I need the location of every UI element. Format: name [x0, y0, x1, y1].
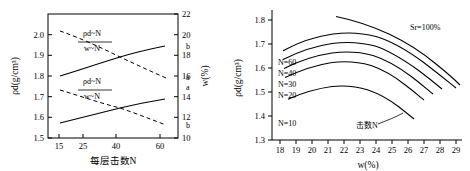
right-ytick-0: 1.3	[254, 135, 265, 145]
curve-saturation-line	[336, 17, 460, 86]
right-xtick-6: 24	[372, 145, 381, 155]
right-xtick-5: 23	[356, 145, 365, 155]
left-axes	[48, 14, 178, 138]
left-ytick2-5: 20	[182, 30, 191, 40]
label-N20: N=20	[278, 91, 296, 100]
label-rho-lower: ρd~N	[83, 77, 101, 86]
label-w-upper: w~N	[84, 44, 100, 53]
right-xtick-9: 27	[420, 145, 429, 155]
annotation-a-top: a	[186, 73, 190, 82]
right-x-axis-label: w(%)	[357, 160, 378, 171]
curve-N10	[288, 86, 414, 119]
right-annotations: Sr=100% N=60 N=40 N=30 N=20 N=10 击数N	[278, 23, 441, 130]
annotation-a-bottom: a	[186, 83, 190, 92]
left-ytick2-6: 22	[182, 9, 191, 19]
left-ytick-1: 1.6	[33, 112, 44, 122]
left-ytick2-2: 14	[182, 92, 191, 102]
annotation-b-top: b	[186, 42, 190, 51]
curve-rho-upper	[60, 46, 165, 76]
left-y-axis-label: ρd(g/cm³)	[10, 57, 21, 95]
left-secondary-y-axis-label: w(%)	[200, 65, 211, 86]
right-xtick-7: 25	[388, 145, 397, 155]
right-chart-panel: 1.3 1.4 1.5 1.6 1.7 1.8 18	[228, 0, 470, 171]
left-ytick2-4: 18	[182, 50, 191, 60]
left-xtick-3: 60	[156, 141, 165, 151]
left-y-axis-ticks: 1.5 1.6 1.7 1.8 1.9 2.0	[33, 30, 52, 143]
right-ytick-2: 1.5	[254, 87, 265, 97]
right-y-axis-label: ρd(g/cm³)	[233, 59, 244, 97]
left-ytick2-0: 10	[182, 133, 191, 143]
left-ytick-5: 2.0	[33, 30, 44, 40]
right-xtick-0: 18	[276, 145, 285, 155]
right-ytick-1: 1.4	[254, 111, 265, 121]
right-chart-svg: 1.3 1.4 1.5 1.6 1.7 1.8 18	[228, 0, 470, 171]
left-xtick-2: 40	[112, 141, 121, 151]
right-x-axis-ticks: 18 19 20 21 22 23 24 25 26 27 28 29	[276, 140, 461, 155]
right-ytick-4: 1.7	[254, 39, 265, 49]
figure-container: 1.5 1.6 1.7 1.8 1.9 2.0 10 12 14 16	[0, 0, 470, 171]
right-xtick-3: 21	[324, 145, 333, 155]
right-y-axis-ticks: 1.3 1.4 1.5 1.6 1.7 1.8	[254, 15, 272, 145]
label-N60: N=60	[278, 58, 296, 67]
left-chart-panel: 1.5 1.6 1.7 1.8 1.9 2.0 10 12 14 16	[0, 0, 225, 171]
left-ytick-2: 1.7	[33, 92, 44, 102]
left-ytick-4: 1.9	[33, 50, 44, 60]
left-x-axis-ticks: 15 25 40 60	[55, 134, 165, 151]
right-xtick-11: 29	[452, 145, 461, 155]
right-xtick-8: 26	[404, 145, 413, 155]
left-ytick-0: 1.5	[33, 133, 44, 143]
left-xtick-0: 15	[55, 141, 64, 151]
right-xtick-10: 28	[436, 145, 445, 155]
right-xtick-2: 20	[308, 145, 317, 155]
right-xtick-4: 22	[340, 145, 349, 155]
label-rho-upper: ρd~N	[83, 29, 101, 38]
blow-count-leader-line	[378, 113, 403, 124]
left-series-curves	[60, 31, 166, 125]
curve-w-lower	[60, 90, 166, 125]
right-ytick-3: 1.6	[254, 63, 265, 73]
label-blow-count: 击数N	[356, 120, 378, 130]
curve-N20	[285, 62, 424, 100]
left-ytick-3: 1.8	[33, 71, 44, 81]
left-xtick-1: 25	[79, 141, 88, 151]
label-N40: N=40	[278, 69, 296, 78]
label-N10: N=10	[278, 119, 296, 128]
right-xtick-1: 19	[292, 145, 301, 155]
left-x-axis-label: 每层击数N	[90, 155, 137, 166]
left-chart-svg: 1.5 1.6 1.7 1.8 1.9 2.0 10 12 14 16	[0, 0, 225, 171]
label-N30: N=30	[278, 80, 296, 89]
annotation-b-bottom: b	[186, 121, 190, 130]
curve-rho-lower	[60, 99, 165, 123]
label-w-lower: w~N	[84, 92, 100, 101]
label-sr-100: Sr=100%	[410, 23, 441, 32]
right-ytick-5: 1.8	[254, 15, 265, 25]
